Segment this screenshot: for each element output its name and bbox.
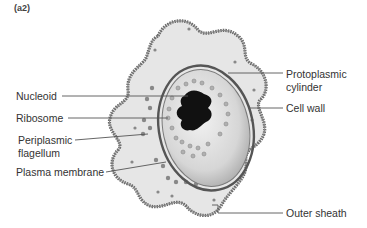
label-periplasmic-flagellum-line2: flagellum <box>18 147 60 159</box>
label-nucleoid: Nucleoid <box>16 90 57 102</box>
label-cell-wall: Cell wall <box>286 102 325 114</box>
label-plasma-membrane: Plasma membrane <box>16 166 104 178</box>
label-outer-sheath: Outer sheath <box>286 207 347 219</box>
label-ribosome: Ribosome <box>16 112 63 124</box>
label-protoplasmic-cylinder-line2: cylinder <box>286 81 322 93</box>
label-protoplasmic-cylinder-line1: Protoplasmic <box>286 68 347 80</box>
label-periplasmic-flagellum-line1: Periplasmic <box>18 134 72 146</box>
